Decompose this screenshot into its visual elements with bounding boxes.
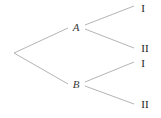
edge-a-to-leaf-i [85,6,134,25]
node-label-a: A [73,22,80,33]
edge-b-to-leaf-ii [85,86,134,104]
leaf-label-b-ii: II [141,99,148,110]
tree-diagram: A B I II I II [0,0,161,118]
edge-root-to-b [14,53,68,84]
leaf-label-a-i: I [141,3,145,14]
edge-b-to-leaf-i [85,62,134,82]
edge-root-to-a [14,28,68,53]
leaf-label-b-i: I [141,58,145,69]
tree-edge-group [0,0,161,118]
edge-a-to-leaf-ii [85,29,134,48]
node-label-b: B [73,79,80,90]
leaf-label-a-ii: II [141,43,148,54]
